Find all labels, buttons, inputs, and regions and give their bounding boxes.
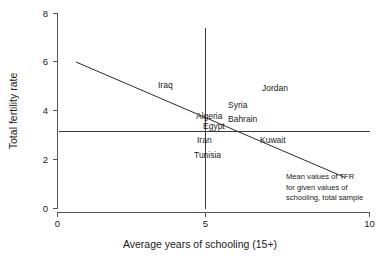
point-label-bahrain: Bahrain: [228, 114, 258, 124]
x-tick-label-5: 5: [203, 218, 208, 229]
y-axis: 0 2 4 6 8 Total fertility rate: [7, 8, 58, 215]
chart-container: 0 2 4 6 8 Total fertility rate 0 5 10 Av…: [0, 0, 392, 260]
annotation-line-1: Mean values of TFR: [286, 172, 363, 183]
point-label-algeria: Algeria: [196, 111, 223, 121]
point-label-iran: Iran: [197, 135, 212, 145]
point-label-egypt: Egypt: [203, 121, 225, 131]
y-axis-title: Total fertility rate: [7, 73, 19, 150]
x-axis-title: Average years of schooling (15+): [123, 238, 277, 250]
x-tick-label-10: 10: [364, 218, 375, 229]
y-tick-label-4: 4: [43, 105, 48, 116]
annotation-line-3: schooling, total sample: [286, 193, 363, 204]
point-label-iraq: Iraq: [158, 80, 173, 90]
point-label-jordan: Jordan: [262, 83, 288, 93]
x-tick-label-0: 0: [55, 218, 60, 229]
y-tick-label-0: 0: [43, 203, 48, 214]
point-label-kuwait: Kuwait: [260, 135, 286, 145]
x-axis: 0 5 10 Average years of schooling (15+): [55, 213, 375, 251]
annotation-line-2: for given values of: [286, 183, 363, 194]
fit-line-annotation: Mean values of TFR for given values of s…: [286, 172, 363, 204]
scatter-plot: 0 2 4 6 8 Total fertility rate 0 5 10 Av…: [0, 0, 392, 260]
y-tick-label-6: 6: [43, 56, 48, 67]
point-label-syria: Syria: [228, 100, 248, 110]
point-label-tunisia: Tunisia: [194, 150, 221, 160]
y-tick-label-8: 8: [43, 8, 48, 19]
y-tick-label-2: 2: [43, 154, 48, 165]
